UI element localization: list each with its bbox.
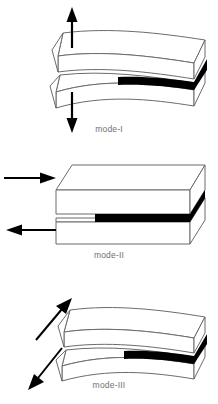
upper-shear-arrow-right [4, 173, 56, 184]
mode-2-upper-block [56, 165, 205, 214]
mode-2-panel: mode-II [0, 140, 218, 270]
mode-3-upper-plate [58, 308, 205, 353]
mode-3-panel: mode-III [0, 280, 218, 404]
mode-1-panel: mode-I [0, 0, 218, 140]
mode-1-upper-plate [52, 31, 205, 79]
mode-2-label: mode-II [0, 250, 218, 260]
upper-block-top-face [56, 165, 205, 190]
upper-block-front-face [56, 190, 190, 214]
mode-1-diagram [0, 0, 218, 140]
mode-3-label: mode-III [0, 380, 218, 390]
lower-block-front-face [56, 222, 190, 244]
fracture-modes-figure: mode-I [0, 0, 218, 404]
lower-shear-arrow-left [6, 225, 56, 236]
mode-1-label: mode-I [0, 124, 218, 134]
crack-front-band [95, 214, 190, 222]
